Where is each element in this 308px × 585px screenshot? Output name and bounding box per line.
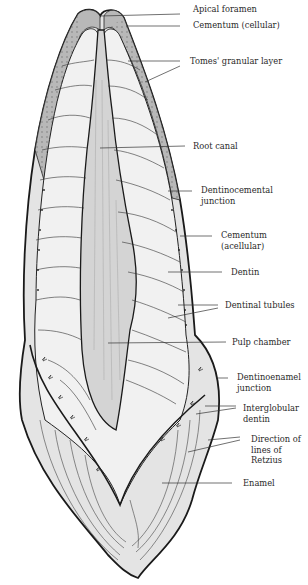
label-cementum-acellular: Cementum (acellular) [221,230,267,251]
label-direction-lines-retzius: Direction of lines of Retzius [251,434,301,466]
label-tomes-granular-layer: Tomes' granular layer [190,56,282,67]
label-root-canal: Root canal [193,141,238,152]
label-dentinoenamel-junction: Dentinoenamel junction [237,372,301,393]
label-dentin: Dentin [231,267,259,278]
label-apical-foramen: Apical foramen [193,4,257,15]
label-dentinal-tubules: Dentinal tubules [225,300,295,311]
label-dentinocemental-junction: Dentinocemental junction [201,185,273,206]
label-pulp-chamber: Pulp chamber [232,337,291,348]
tooth-section-illustration [0,0,308,585]
label-cementum-cellular: Cementum (cellular) [193,20,280,31]
label-interglobular-dentin: Interglobular dentin [243,403,299,424]
label-enamel: Enamel [243,478,275,489]
